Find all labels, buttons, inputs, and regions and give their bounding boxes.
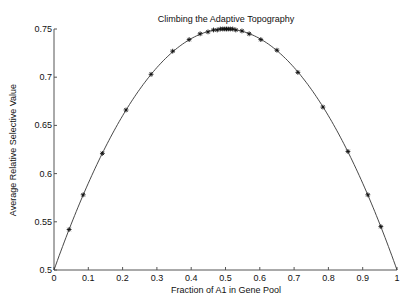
x-tick-label: 0.8: [322, 273, 335, 283]
data-point-marker: [346, 149, 351, 154]
y-tick-label: 0.7: [39, 72, 52, 82]
y-tick-label: 0.6: [39, 169, 52, 179]
data-point-marker: [321, 105, 326, 110]
x-tick-label: 0.5: [219, 273, 232, 283]
data-point-marker: [100, 151, 105, 156]
data-point-marker: [365, 192, 370, 197]
data-point-marker: [295, 70, 300, 75]
chart-title: Climbing the Adaptive Topography: [158, 14, 295, 24]
data-point-marker: [170, 49, 175, 54]
data-point-marker: [247, 31, 252, 36]
chart: Climbing the Adaptive Topography 00.10.2…: [0, 0, 419, 303]
x-tick-label: 0.9: [356, 273, 369, 283]
x-tick-label: 0.7: [288, 273, 301, 283]
data-point-marker: [149, 72, 154, 77]
x-tick-label: 0.1: [82, 273, 95, 283]
x-tick-label: 0.2: [116, 273, 129, 283]
axes: 00.10.20.30.40.50.60.70.80.910.50.550.60…: [34, 24, 399, 283]
data-point-marker: [67, 227, 72, 232]
y-axis-label: Average Relative Selective Value: [8, 84, 18, 216]
x-tick-label: 0.6: [254, 273, 267, 283]
x-tick-label: 1: [394, 273, 399, 283]
data-point-marker: [240, 29, 245, 34]
data-point-marker: [275, 48, 280, 53]
data-point-marker: [198, 31, 203, 36]
data-point-marker: [206, 29, 211, 34]
data-point-marker: [81, 192, 86, 197]
fitness-curve-line: [54, 29, 397, 270]
y-tick-label: 0.55: [34, 217, 52, 227]
data-point-marker: [187, 37, 192, 42]
data-point-marker: [233, 28, 238, 33]
data-point-marker: [258, 37, 263, 42]
y-tick-label: 0.5: [39, 265, 52, 275]
curve-layer: [54, 29, 397, 270]
x-axis-label: Fraction of A1 in Gene Pool: [171, 285, 281, 295]
x-tick-label: 0.4: [185, 273, 198, 283]
y-tick-label: 0.65: [34, 120, 52, 130]
data-point-marker: [124, 108, 129, 113]
data-point-marker: [378, 224, 383, 229]
y-tick-label: 0.75: [34, 24, 52, 34]
x-tick-label: 0.3: [151, 273, 164, 283]
x-tick-label: 0: [51, 273, 56, 283]
